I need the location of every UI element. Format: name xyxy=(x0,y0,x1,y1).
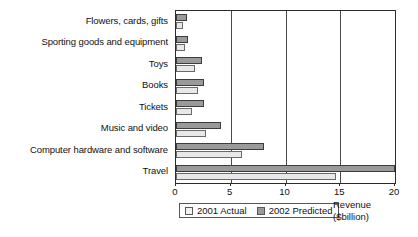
bar-predicted xyxy=(176,36,188,43)
bar-actual xyxy=(176,151,242,158)
bar-chart: Flowers, cards, giftsSporting goods and … xyxy=(0,0,418,237)
plot-area xyxy=(175,10,396,184)
x-axis-title: Revenue ($billion) xyxy=(333,199,417,222)
category-label: Computer hardware and software xyxy=(0,144,168,155)
tick-label: 5 xyxy=(227,186,232,197)
legend-entry: 2001 Actual xyxy=(185,205,247,216)
tick-label: 15 xyxy=(334,186,345,197)
tick-label: 10 xyxy=(279,186,290,197)
chart-legend: 2001 Actual2002 Predicted xyxy=(179,203,339,218)
category-label: Toys xyxy=(0,58,168,69)
bar-predicted xyxy=(176,122,221,129)
legend-swatch-icon xyxy=(257,207,265,215)
category-label: Music and video xyxy=(0,122,168,133)
category-axis-labels: Flowers, cards, giftsSporting goods and … xyxy=(0,10,172,182)
bar-actual xyxy=(176,108,192,115)
legend-swatch-icon xyxy=(185,207,193,215)
bar-predicted xyxy=(176,165,395,172)
tick-label: 0 xyxy=(172,186,177,197)
gridline xyxy=(340,11,341,183)
bar-predicted xyxy=(176,100,204,107)
bar-actual xyxy=(176,22,183,29)
bar-actual xyxy=(176,173,336,180)
tick-label: 20 xyxy=(389,186,400,197)
x-axis-title-line2: ($billion) xyxy=(333,211,417,223)
gridline xyxy=(286,11,287,183)
x-axis-title-line1: Revenue xyxy=(333,199,417,211)
category-label: Travel xyxy=(0,165,168,176)
bar-predicted xyxy=(176,14,187,21)
bar-actual xyxy=(176,130,206,137)
bar-actual xyxy=(176,87,198,94)
category-label: Books xyxy=(0,79,168,90)
category-label: Sporting goods and equipment xyxy=(0,36,168,47)
bar-predicted xyxy=(176,57,202,64)
category-label: Tickets xyxy=(0,101,168,112)
x-axis-ticks: 05101520 xyxy=(175,183,394,197)
legend-entry: 2002 Predicted xyxy=(257,205,333,216)
bar-predicted xyxy=(176,143,264,150)
legend-label: 2002 Predicted xyxy=(269,205,333,216)
legend-label: 2001 Actual xyxy=(197,205,247,216)
bar-predicted xyxy=(176,79,204,86)
category-label: Flowers, cards, gifts xyxy=(0,15,168,26)
bar-actual xyxy=(176,65,195,72)
bar-actual xyxy=(176,44,185,51)
